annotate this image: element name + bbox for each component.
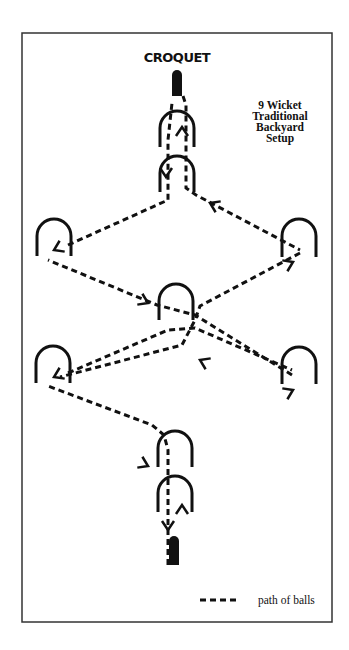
stakes	[169, 70, 182, 565]
right-wicket-lower	[282, 347, 316, 384]
bottom-wicket-1	[158, 431, 192, 467]
right-wicket-upper	[282, 219, 316, 257]
bottom-stake	[169, 536, 179, 565]
arrowhead-icon	[282, 385, 295, 400]
caption-line: Setup	[266, 132, 294, 145]
ball-path-segment	[48, 386, 168, 565]
bottom-wicket-2	[158, 476, 192, 512]
legend-label: path of balls	[258, 594, 315, 607]
ball-path-segment	[68, 328, 292, 373]
arrowhead-icon	[137, 457, 150, 472]
diagram-title: CROQUET	[144, 50, 211, 65]
arrowhead-icon	[197, 355, 210, 370]
arrowhead-icon	[51, 368, 64, 383]
legend: path of balls	[200, 594, 315, 607]
croquet-diagram: CROQUET 9 Wicket Traditional Backyard Se…	[0, 0, 349, 650]
ball-paths	[48, 96, 300, 565]
arrowhead-icon	[176, 505, 188, 514]
top-stake	[172, 70, 182, 96]
setup-caption: 9 Wicket Traditional Backyard Setup	[252, 99, 307, 145]
ball-path-segment	[68, 103, 172, 245]
top-wicket-1	[160, 111, 194, 147]
arrowhead-icon	[51, 241, 64, 256]
